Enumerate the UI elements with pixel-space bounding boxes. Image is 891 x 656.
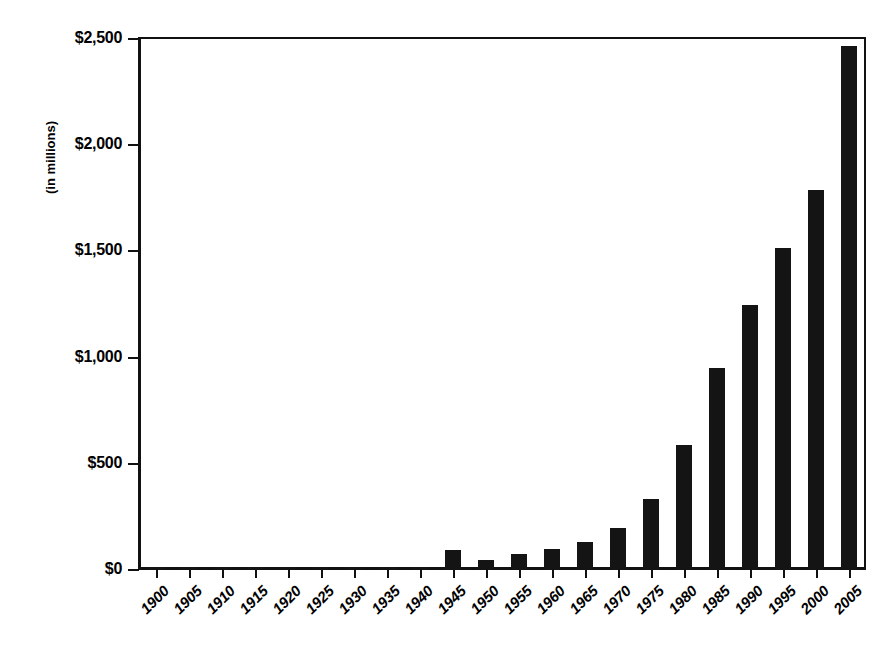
x-axis-tick: [288, 570, 290, 578]
bar: [742, 305, 758, 571]
x-axis-tick: [750, 570, 752, 578]
x-axis-tick: [453, 570, 455, 578]
y-axis-tick-label: $2,500: [12, 30, 122, 46]
bar: [643, 499, 659, 570]
x-axis-tick: [717, 570, 719, 578]
x-axis-tick: [684, 570, 686, 578]
x-axis-tick: [651, 570, 653, 578]
bar-chart: (in millions) $0$500$1,000$1,500$2,000$2…: [0, 0, 891, 656]
x-axis-tick: [387, 570, 389, 578]
bar: [577, 542, 593, 570]
x-axis-tick: [585, 570, 587, 578]
x-axis-tick: [486, 570, 488, 578]
chart-title-remnant: [150, 0, 770, 3]
bar: [676, 445, 692, 570]
bar: [511, 554, 527, 570]
bar: [841, 46, 857, 570]
x-axis-tick: [156, 570, 158, 578]
y-axis-title: (in millions): [43, 78, 58, 238]
x-axis-tick: [255, 570, 257, 578]
x-axis-tick: [420, 570, 422, 578]
bar: [610, 528, 626, 570]
bar: [775, 248, 791, 570]
x-axis-tick: [618, 570, 620, 578]
bar: [544, 549, 560, 570]
x-axis-tick: [189, 570, 191, 578]
y-axis-tick-label: $1,500: [12, 242, 122, 258]
x-axis-tick: [816, 570, 818, 578]
x-axis-tick: [321, 570, 323, 578]
bar: [478, 560, 494, 570]
bar: [808, 190, 824, 570]
x-axis-tick: [354, 570, 356, 578]
x-axis-tick: [519, 570, 521, 578]
bar: [709, 368, 725, 570]
y-axis-tick-label: $1,000: [12, 349, 122, 365]
y-axis-tick-label: $2,000: [12, 136, 122, 152]
y-axis-tick-label: $500: [12, 455, 122, 471]
x-axis-tick: [552, 570, 554, 578]
x-axis-tick: [783, 570, 785, 578]
y-axis-tick-label: $0: [12, 561, 122, 577]
bar: [445, 550, 461, 570]
x-axis-tick: [222, 570, 224, 578]
plot-area: [141, 39, 866, 570]
x-axis-tick: [849, 570, 851, 578]
